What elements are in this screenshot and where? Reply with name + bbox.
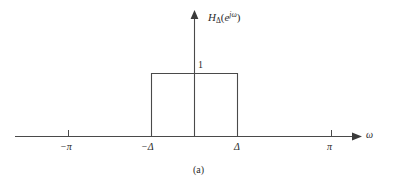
omega-axis-arrowhead: [352, 133, 362, 141]
amplitude-axis-arrowhead: [191, 10, 199, 19]
close-paren: ): [237, 11, 241, 23]
xtick-label-neg-pi: −π: [60, 142, 72, 152]
omega-axis-label: ω: [366, 130, 373, 140]
xtick-label-neg-delta: −Δ: [141, 142, 154, 152]
xtick-label-pi: π: [327, 142, 332, 152]
amplitude-value-label: 1: [198, 60, 203, 70]
transfer-function-symbol: H: [208, 11, 216, 23]
figure-caption: (a): [0, 165, 397, 175]
amplitude-axis-label: HΔ(ejω): [208, 11, 240, 25]
figure-container: HΔ(ejω) 1 −π −Δ Δ π ω (a): [0, 0, 397, 186]
exponential-exponent: jω: [229, 10, 236, 19]
frequency-response-plot: [0, 0, 397, 186]
xtick-label-delta: Δ: [234, 142, 240, 152]
